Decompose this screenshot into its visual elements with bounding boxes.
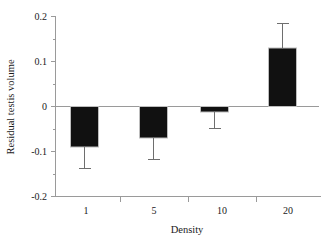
- x-tick-label-0: 1: [84, 205, 89, 216]
- bar-density-5: [140, 107, 168, 139]
- residual-testis-volume-bar-chart: 0.2 0.1 0 -0.1 -0.2 1 5 10 20: [0, 0, 330, 242]
- y-tick-label-0: 0.2: [35, 11, 48, 22]
- x-tick-label-1: 5: [152, 205, 157, 216]
- y-axis-title: Residual testis volume: [5, 59, 16, 154]
- y-tick-label-3: -0.1: [31, 146, 47, 157]
- bar-density-1: [71, 107, 99, 148]
- x-axis-title: Density: [171, 224, 204, 235]
- bar-density-10: [201, 107, 229, 113]
- y-tick-label-1: 0.1: [35, 56, 48, 67]
- y-tick-label-4: -0.2: [31, 191, 47, 202]
- bar-density-20: [269, 48, 297, 107]
- y-tick-label-2: 0: [42, 101, 47, 112]
- x-tick-label-3: 20: [283, 205, 293, 216]
- x-tick-label-2: 10: [217, 205, 227, 216]
- chart-figure: 0.2 0.1 0 -0.1 -0.2 1 5 10 20: [0, 0, 330, 242]
